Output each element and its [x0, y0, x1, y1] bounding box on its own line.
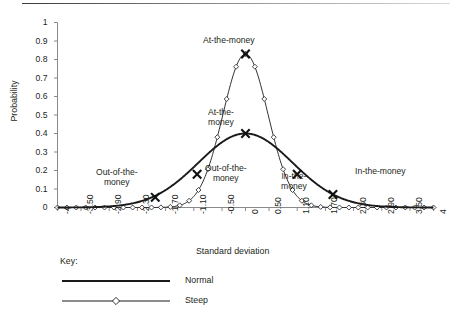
annotation-line: At-the-money: [203, 36, 255, 46]
y-tick-label: 0.7: [22, 73, 48, 83]
x-tick-label: 1.70: [329, 197, 339, 214]
x-tick-label: 2.30: [358, 197, 368, 214]
y-tick-label: 0.8: [22, 54, 48, 64]
x-tick-label: -4: [62, 206, 72, 214]
x-tick-label: 1.10: [301, 197, 311, 214]
y-tick-label: 0.6: [22, 91, 48, 101]
annotation-label-at-the-money-normal: At-the-money: [208, 108, 234, 127]
series-marker-steep: [224, 96, 229, 101]
series-marker-steep: [262, 96, 267, 101]
x-tick-label: -2.30: [141, 194, 151, 214]
series-marker-steep: [130, 205, 135, 210]
x-tick-label: 2.90: [386, 197, 396, 214]
x-tick-label: 4: [438, 209, 448, 214]
x-tick-label: 0: [250, 209, 260, 214]
y-tick-label: 0.4: [22, 128, 48, 138]
legend-swatch-steep: [60, 295, 172, 307]
series-marker-steep: [318, 204, 323, 209]
annotation-x-marker: [193, 170, 201, 178]
series-marker-steep: [346, 205, 351, 210]
series-marker-steep: [252, 64, 257, 69]
y-tick-label: 0.1: [22, 184, 48, 194]
x-tick-label: 3.50: [414, 197, 424, 214]
x-axis-title: Standard deviation: [196, 246, 269, 256]
y-axis-title: Probability: [9, 66, 19, 136]
annotation-label-at-the-money-steep: At-the-money: [203, 36, 255, 46]
legend-label-normal: Normal: [185, 275, 213, 285]
y-tick-label: 0.2: [22, 165, 48, 175]
annotation-line: money: [281, 182, 307, 192]
legend-item-steep: Steep: [60, 295, 280, 315]
x-tick-label: -0.50: [226, 194, 236, 214]
x-tick-label: -1.70: [170, 194, 180, 214]
x-tick-label: -1.10: [198, 194, 208, 214]
series-marker-steep: [215, 135, 220, 140]
legend-label-steep: Steep: [185, 295, 208, 305]
y-tick-label: 0.9: [22, 36, 48, 46]
annotation-line: In-the-money: [355, 167, 406, 177]
y-tick-label: 1: [22, 17, 48, 27]
annotation-label-out-of-the-money-steep: Out-of-the-money: [205, 164, 247, 183]
series-marker-steep: [234, 64, 239, 69]
legend-swatch-normal: [60, 275, 172, 287]
x-tick-label: -2.90: [113, 194, 123, 214]
series-marker-steep: [196, 187, 201, 192]
chart-figure: Probability Standard deviation 00.10.20.…: [0, 0, 465, 324]
y-tick-label: 0.3: [22, 147, 48, 157]
annotation-label-out-of-the-money-normal: Out-of-the-money: [96, 168, 138, 187]
chart-legend: Key: Normal Steep: [60, 256, 280, 315]
x-tick-label: 0.50: [273, 197, 283, 214]
series-marker-steep: [271, 135, 276, 140]
annotation-label-in-the-money-steep: In-the-money: [281, 172, 307, 191]
annotation-label-in-the-money-normal: In-the-money: [355, 167, 406, 177]
annotation-line: money: [96, 178, 138, 188]
series-marker-steep: [158, 205, 163, 210]
annotation-line: money: [205, 174, 247, 184]
annotation-line: money: [208, 118, 234, 128]
x-tick-label: -3.50: [85, 194, 95, 214]
y-tick-label: 0.5: [22, 110, 48, 120]
y-tick-label: 0: [22, 202, 48, 212]
legend-title: Key:: [60, 256, 280, 266]
legend-item-normal: Normal: [60, 275, 280, 295]
